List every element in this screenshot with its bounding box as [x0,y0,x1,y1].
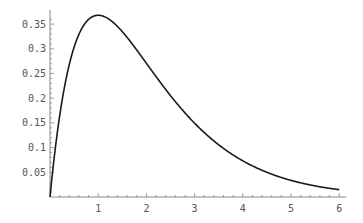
x-tick-label: 6 [336,203,342,214]
y-tick-label: 0.3 [28,43,46,54]
plot-curve [50,15,339,197]
y-tick-label: 0.15 [22,117,46,128]
y-tick-label: 0.1 [28,142,46,153]
x-tick-label: 5 [288,203,294,214]
y-tick-label: 0.05 [22,167,46,178]
axes [50,10,346,197]
x-tick-label: 2 [143,203,149,214]
x-tick-label: 1 [95,203,101,214]
y-tick-label: 0.2 [28,93,46,104]
ticks [50,19,339,197]
y-tick-label: 0.35 [22,19,46,30]
x-tick-label: 4 [240,203,246,214]
function-plot: 1234560.050.10.150.20.250.30.35 [0,0,363,223]
x-tick-label: 3 [192,203,198,214]
tick-labels: 1234560.050.10.150.20.250.30.35 [22,19,342,214]
y-tick-label: 0.25 [22,68,46,79]
